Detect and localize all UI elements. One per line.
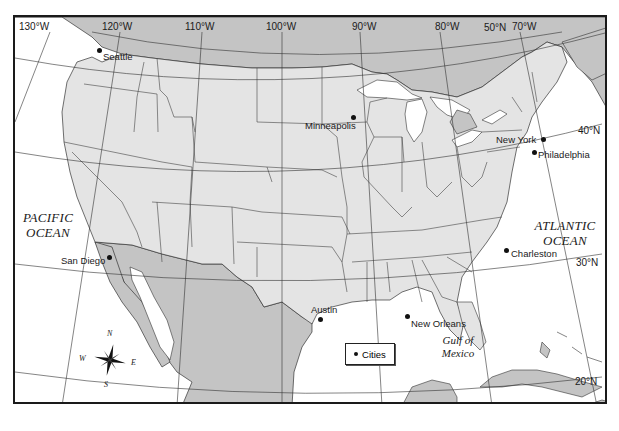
lon-label-70w: 70°W	[512, 21, 537, 32]
lon-label-100w: 100°W	[266, 21, 296, 32]
compass-star-icon	[85, 335, 135, 385]
city-label-new-orleans: New Orleans	[411, 318, 466, 329]
lat-label-50n: 50°N	[484, 22, 506, 33]
lon-label-90w: 90°W	[352, 21, 377, 32]
city-marker-austin[interactable]	[318, 317, 323, 322]
legend-label: Cities	[362, 349, 386, 360]
compass-rose: N S E W	[85, 335, 135, 385]
city-marker-new-orleans[interactable]	[405, 314, 410, 319]
city-label-austin: Austin	[311, 304, 337, 315]
city-label-new-york: New York	[496, 134, 536, 145]
pacific-line2: OCEAN	[13, 225, 83, 240]
map-frame: 130°W 120°W 110°W 100°W 90°W 80°W 70°W 5…	[13, 15, 607, 404]
gulf-line2: Mexico	[433, 347, 483, 360]
lat-label-30n: 30°N	[576, 257, 598, 268]
city-marker-philadelphia[interactable]	[532, 150, 537, 155]
city-label-philadelphia: Philadelphia	[538, 149, 590, 160]
compass-s: S	[104, 380, 108, 389]
lat-label-40n: 40°N	[578, 125, 600, 136]
city-marker-charleston[interactable]	[504, 248, 509, 253]
atlantic-line1: ATLANTIC	[525, 218, 605, 233]
lon-label-120w: 120°W	[102, 21, 132, 32]
compass-e: E	[131, 358, 136, 367]
bahamas-islands	[540, 332, 602, 362]
lon-label-80w: 80°W	[435, 21, 460, 32]
hispaniola-island	[587, 400, 607, 404]
city-label-seattle: Seattle	[103, 51, 133, 62]
pacific-ocean-label: PACIFIC OCEAN	[13, 210, 83, 240]
gulf-of-mexico-label: Gulf of Mexico	[433, 334, 483, 360]
atlantic-ocean-label: ATLANTIC OCEAN	[525, 218, 605, 248]
city-marker-new-york[interactable]	[541, 137, 546, 142]
map-legend: Cities	[345, 343, 395, 365]
city-marker-san-diego[interactable]	[107, 255, 112, 260]
city-label-san-diego: San Diego	[61, 255, 105, 266]
gulf-line1: Gulf of	[433, 334, 483, 347]
city-marker-seattle[interactable]	[97, 48, 102, 53]
compass-n: N	[107, 329, 112, 338]
lon-label-110w: 110°W	[185, 21, 214, 32]
city-label-minneapolis: Minneapolis	[305, 120, 356, 131]
compass-w: W	[79, 354, 86, 363]
city-label-charleston: Charleston	[511, 248, 557, 259]
lat-label-20n: 20°N	[575, 376, 597, 387]
legend-city-dot-icon	[354, 352, 358, 356]
pacific-line1: PACIFIC	[13, 210, 83, 225]
lon-label-130w: 130°W	[19, 21, 49, 32]
atlantic-line2: OCEAN	[525, 233, 605, 248]
